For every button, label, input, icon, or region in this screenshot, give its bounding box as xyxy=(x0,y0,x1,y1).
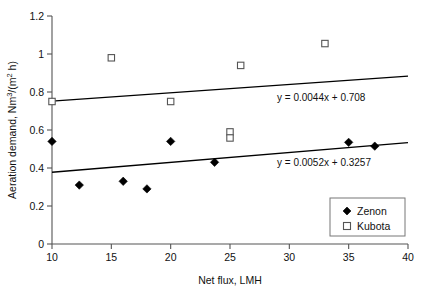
data-point-zenon xyxy=(143,185,151,193)
x-tick-label: 10 xyxy=(46,251,58,263)
data-point-kubota xyxy=(167,98,173,104)
x-axis-title: Net flux, LMH xyxy=(198,274,262,286)
y-tick-label: 0.8 xyxy=(29,86,44,98)
series-kubota-markers xyxy=(49,40,328,141)
data-point-zenon xyxy=(75,181,83,189)
y-tick-label: 0.6 xyxy=(29,124,44,136)
chart-legend[interactable]: Zenon Kubota xyxy=(330,198,405,236)
y-axis-title-mid: /(m xyxy=(6,77,18,92)
data-point-zenon xyxy=(48,137,56,145)
data-point-kubota xyxy=(237,62,243,68)
y-axis-title-suffix: h) xyxy=(6,61,18,73)
y-tick-label: 0.2 xyxy=(29,200,44,212)
aeration-demand-scatter-chart: 00.20.40.60.811.2 10152025303540 y = 0.0… xyxy=(0,0,428,294)
x-tick-label: 30 xyxy=(283,251,295,263)
data-point-kubota xyxy=(108,55,114,61)
legend-label-kubota: Kubota xyxy=(357,220,390,232)
y-axis-ticks: 00.20.40.60.811.2 xyxy=(29,10,52,250)
legend-marker-open-square-icon xyxy=(344,223,351,230)
data-point-zenon xyxy=(371,142,379,150)
x-tick-label: 35 xyxy=(343,251,355,263)
data-point-kubota xyxy=(322,40,328,46)
legend-label-zenon: Zenon xyxy=(357,205,387,217)
trendline-equation-zenon: y = 0.0052x + 0.3257 xyxy=(277,157,371,168)
y-axis-title-prefix: Aeration demand, Nm xyxy=(6,97,18,199)
data-point-zenon xyxy=(344,138,352,146)
y-tick-label: 0.4 xyxy=(29,162,44,174)
y-axis-title: Aeration demand, Nm3/(m2 h) xyxy=(5,61,19,199)
x-tick-label: 15 xyxy=(105,251,117,263)
data-point-kubota xyxy=(227,135,233,141)
data-point-kubota xyxy=(49,98,55,104)
data-point-zenon xyxy=(166,137,174,145)
y-tick-label: 1.2 xyxy=(29,10,44,22)
x-tick-label: 25 xyxy=(224,251,236,263)
data-point-kubota xyxy=(227,129,233,135)
y-tick-label: 0 xyxy=(38,238,44,250)
svg-text:Aeration demand, Nm3/(m2 h): Aeration demand, Nm3/(m2 h) xyxy=(5,61,19,199)
x-axis-ticks: 10152025303540 xyxy=(46,244,414,263)
data-point-zenon xyxy=(119,177,127,185)
y-tick-label: 1 xyxy=(38,48,44,60)
chart-canvas: 00.20.40.60.811.2 10152025303540 y = 0.0… xyxy=(0,0,428,294)
x-tick-label: 20 xyxy=(165,251,177,263)
trendline-equation-kubota: y = 0.0044x + 0.708 xyxy=(277,92,366,103)
x-tick-label: 40 xyxy=(402,251,414,263)
